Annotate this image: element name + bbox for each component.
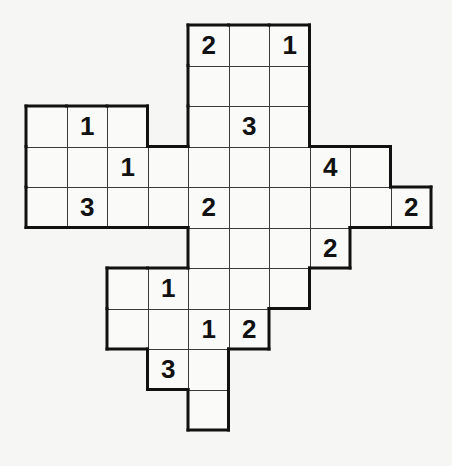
grid-cell-r5-c7[interactable]: 2 <box>310 228 352 270</box>
grid-cell-r3-c8[interactable] <box>350 147 392 189</box>
grid-cell-r6-c6[interactable] <box>269 268 311 310</box>
grid-cell-r4-c0[interactable] <box>26 187 68 229</box>
grid-cell-r4-c3[interactable] <box>148 187 190 229</box>
grid-cell-r9-c4[interactable] <box>188 390 230 432</box>
grid-cell-r7-c4[interactable]: 1 <box>188 309 230 351</box>
grid-cell-r2-c2[interactable] <box>107 106 149 148</box>
grid-cell-r7-c3[interactable] <box>148 309 190 351</box>
puzzle-board: 21131432221123 <box>0 0 452 466</box>
grid-cell-r0-c6[interactable]: 1 <box>269 25 311 67</box>
grid-cell-r2-c4[interactable] <box>188 106 230 148</box>
grid-cell-r4-c7[interactable] <box>310 187 352 229</box>
grid-cell-r5-c6[interactable] <box>269 228 311 270</box>
grid-cell-r3-c7[interactable]: 4 <box>310 147 352 189</box>
grid-cell-r1-c4[interactable] <box>188 66 230 108</box>
grid-cell-r3-c1[interactable] <box>67 147 109 189</box>
grid-cell-r3-c0[interactable] <box>26 147 68 189</box>
grid-cell-r4-c4[interactable]: 2 <box>188 187 230 229</box>
grid-cell-r2-c1[interactable]: 1 <box>67 106 109 148</box>
grid-cell-r4-c9[interactable]: 2 <box>391 187 433 229</box>
grid-cell-r6-c3[interactable]: 1 <box>148 268 190 310</box>
grid-cell-r8-c4[interactable] <box>188 349 230 391</box>
grid-cell-r4-c6[interactable] <box>269 187 311 229</box>
grid-cell-r2-c5[interactable]: 3 <box>229 106 271 148</box>
grid-cell-r4-c5[interactable] <box>229 187 271 229</box>
grid-cell-r2-c6[interactable] <box>269 106 311 148</box>
grid-cell-r3-c6[interactable] <box>269 147 311 189</box>
grid-cell-r5-c4[interactable] <box>188 228 230 270</box>
grid-cell-r6-c2[interactable] <box>107 268 149 310</box>
grid-cell-r6-c4[interactable] <box>188 268 230 310</box>
grid-cell-r7-c5[interactable]: 2 <box>229 309 271 351</box>
grid-cell-r4-c2[interactable] <box>107 187 149 229</box>
grid-cell-r8-c3[interactable]: 3 <box>148 349 190 391</box>
grid-cell-r4-c1[interactable]: 3 <box>67 187 109 229</box>
grid-cell-r2-c0[interactable] <box>26 106 68 148</box>
grid-cell-r1-c5[interactable] <box>229 66 271 108</box>
grid-cell-r3-c4[interactable] <box>188 147 230 189</box>
grid-cell-r5-c5[interactable] <box>229 228 271 270</box>
grid-cell-r0-c5[interactable] <box>229 25 271 67</box>
grid-cell-r4-c8[interactable] <box>350 187 392 229</box>
grid-cell-r3-c3[interactable] <box>148 147 190 189</box>
grid-cell-r3-c2[interactable]: 1 <box>107 147 149 189</box>
grid-cell-r7-c2[interactable] <box>107 309 149 351</box>
grid-cell-r6-c5[interactable] <box>229 268 271 310</box>
grid-cell-r0-c4[interactable]: 2 <box>188 25 230 67</box>
grid-cell-r1-c6[interactable] <box>269 66 311 108</box>
grid-cell-r3-c5[interactable] <box>229 147 271 189</box>
